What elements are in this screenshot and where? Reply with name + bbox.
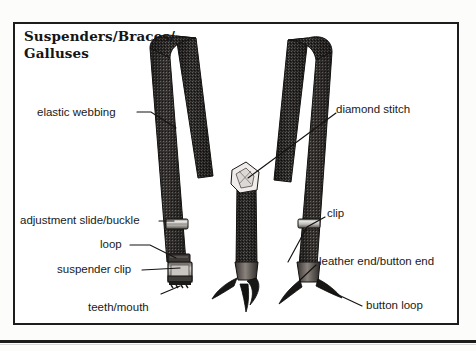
label-button-loop: button loop [366,299,423,312]
figure-title-line-2: Galluses [24,45,89,61]
illustration-frame [13,22,459,325]
figure-title: Suspenders/Braces/ Galluses [24,28,254,62]
label-teeth-mouth: teeth/mouth [88,301,149,314]
label-elastic-webbing: elastic webbing [37,106,116,119]
figure-page: Suspenders/Braces/ Galluses elastic webb… [0,0,476,351]
label-adjustment-slide-buckle: adjustment slide/buckle [20,214,140,227]
bottom-divider-rule-shadow [0,344,476,345]
label-leather-end-button-end: leather end/button end [319,255,434,268]
label-clip: clip [327,207,344,220]
label-loop: loop [100,238,122,251]
label-diamond-stitch: diamond stitch [336,103,410,116]
bottom-divider-rule [0,340,476,343]
figure-title-line-1: Suspenders/Braces/ [24,28,175,44]
label-suspender-clip: suspender clip [57,263,131,276]
